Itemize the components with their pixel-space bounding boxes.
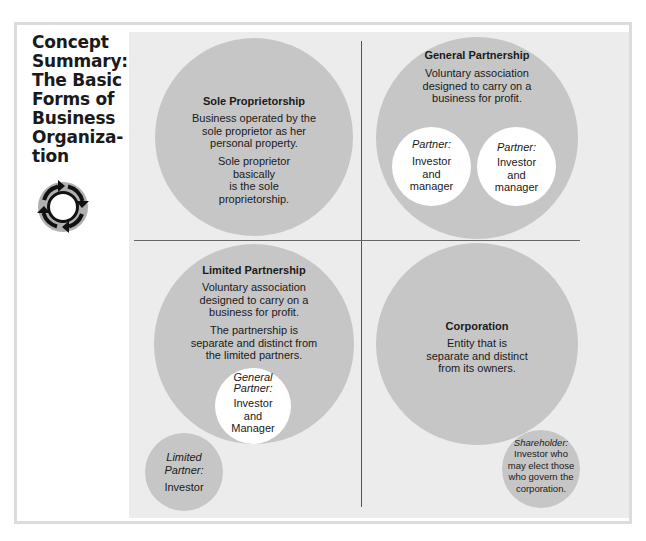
limited-partner-label: Limited Partner: — [145, 451, 223, 476]
title-line: Concept — [32, 33, 132, 52]
limited-partnership-title: Limited Partnership — [154, 264, 354, 277]
text-line: is the sole — [155, 180, 353, 193]
title-line: Forms of — [32, 90, 132, 109]
text-line: designed to carry on a — [154, 294, 354, 307]
partner-label: Partner: — [477, 141, 556, 154]
text-line: may elect those — [502, 460, 580, 472]
text-line: from its owners. — [376, 362, 578, 375]
horizontal-divider — [134, 240, 580, 241]
text-line: Investor — [392, 155, 471, 168]
limited-partnership-description: Voluntary association designed to carry … — [154, 281, 354, 319]
shareholder-circle: Shareholder: Investor who may elect thos… — [502, 430, 580, 508]
text-line: separate and distinct from — [154, 337, 354, 350]
sole-proprietorship-note: Sole proprietor basically is the sole pr… — [155, 155, 353, 205]
corporation-description: Entity that is separate and distinct fro… — [376, 337, 578, 375]
shareholder-label: Shareholder: — [502, 437, 580, 448]
text-line: Investor — [215, 397, 291, 410]
text-line: Partner: — [215, 383, 291, 394]
text-line: manager — [477, 181, 556, 194]
general-partnership-title: General Partnership — [376, 49, 578, 62]
title-line: Business — [32, 109, 132, 128]
text-line: Limited — [145, 451, 223, 464]
text-line: basically — [155, 168, 353, 181]
sole-proprietorship-title: Sole Proprietorship — [155, 95, 353, 108]
text-line: and — [477, 169, 556, 182]
partner-role: Investor and manager — [477, 156, 556, 194]
text-line: corporation. — [502, 483, 580, 495]
text-line: business for profit. — [376, 92, 578, 105]
text-line: designed to carry on a — [376, 80, 578, 93]
shareholder-role: Investor who may elect those who govern … — [502, 448, 580, 494]
title-line: The Basic — [32, 71, 132, 90]
sole-proprietorship-description: Business operated by the sole proprietor… — [155, 112, 353, 150]
partner-role: Investor and manager — [392, 155, 471, 193]
limited-partnership-note: The partnership is separate and distinct… — [154, 324, 354, 362]
text-line: and — [215, 410, 291, 423]
concept-summary-title: Concept Summary: The Basic Forms of Busi… — [32, 33, 132, 166]
general-partnership-description: Voluntary association designed to carry … — [376, 67, 578, 105]
text-line: Voluntary association — [376, 67, 578, 80]
text-line: who govern the — [502, 471, 580, 483]
text-line: the limited partners. — [154, 349, 354, 362]
limited-partner-circle: Limited Partner: Investor — [145, 433, 223, 511]
corporation-circle: Corporation Entity that is separate and … — [376, 243, 578, 445]
title-line: tion — [32, 147, 132, 166]
partner-circle-1: Partner: Investor and manager — [392, 127, 471, 206]
text-line: personal property. — [155, 137, 353, 150]
general-partner-circle: General Partner: Investor and Manager — [215, 368, 291, 444]
text-line: proprietorship. — [155, 193, 353, 206]
text-line: and — [392, 168, 471, 181]
title-line: Summary: — [32, 52, 132, 71]
text-line: Sole proprietor — [155, 155, 353, 168]
text-line: business for profit. — [154, 306, 354, 319]
vertical-divider — [361, 41, 362, 507]
partner-label: Partner: — [392, 138, 471, 151]
text-line: manager — [392, 180, 471, 193]
general-partner-label: General Partner: — [215, 372, 291, 394]
text-line: Manager — [215, 422, 291, 435]
cycle-arrows-icon — [32, 176, 94, 238]
text-line: Business operated by the — [155, 112, 353, 125]
text-line: Entity that is — [376, 337, 578, 350]
text-line: Partner: — [145, 464, 223, 477]
general-partner-role: Investor and Manager — [215, 397, 291, 435]
text-line: Voluntary association — [154, 281, 354, 294]
text-line: separate and distinct — [376, 350, 578, 363]
text-line: The partnership is — [154, 324, 354, 337]
text-line: Investor who — [502, 448, 580, 460]
partner-circle-2: Partner: Investor and manager — [477, 127, 556, 206]
text-line: sole proprietor as her — [155, 125, 353, 138]
title-line: Organiza- — [32, 128, 132, 147]
sole-proprietorship-circle: Sole Proprietorship Business operated by… — [155, 38, 353, 236]
corporation-title: Corporation — [376, 320, 578, 333]
limited-partner-role: Investor — [145, 481, 223, 494]
text-line: Investor — [477, 156, 556, 169]
